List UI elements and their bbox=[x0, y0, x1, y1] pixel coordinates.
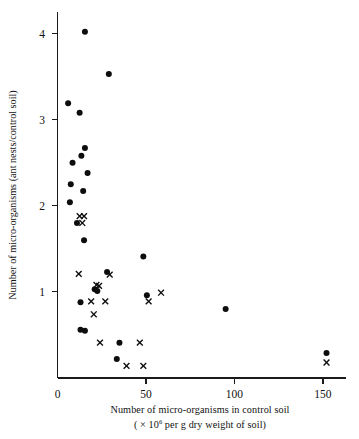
data-point-circle bbox=[67, 199, 73, 205]
x-tick-label: 0 bbox=[55, 388, 61, 400]
chart-figure: 1234 050100150 Number of micro-organisms… bbox=[0, 0, 359, 439]
data-point-circle bbox=[78, 299, 84, 305]
data-point-circle bbox=[82, 29, 88, 35]
y-axis-title: Number of micro-organisms (ant nests/con… bbox=[7, 90, 19, 299]
scatter-plot-svg: 1234 050100150 Number of micro-organisms… bbox=[0, 0, 359, 439]
x-axis-units-prefix: ( × 10 bbox=[134, 419, 159, 431]
x-tick-label: 50 bbox=[140, 388, 152, 400]
data-point-circle bbox=[78, 153, 84, 159]
data-point-circle bbox=[65, 100, 71, 106]
data-point-cross bbox=[137, 340, 143, 346]
x-axis-ticks: 050100150 bbox=[55, 378, 332, 400]
data-point-cross bbox=[124, 363, 130, 369]
data-point-circle bbox=[74, 220, 80, 226]
data-point-circle bbox=[324, 350, 330, 356]
data-point-circle bbox=[116, 340, 122, 346]
data-point-cross bbox=[79, 220, 85, 226]
data-point-circle bbox=[82, 328, 88, 334]
data-point-circle bbox=[77, 110, 83, 116]
x-tick-label: 100 bbox=[226, 388, 244, 400]
data-point-cross bbox=[88, 298, 94, 304]
data-point-cross bbox=[97, 340, 103, 346]
series-cross bbox=[76, 213, 330, 369]
data-point-circle bbox=[82, 145, 88, 151]
data-point-circle bbox=[85, 170, 91, 176]
data-point-cross bbox=[140, 363, 146, 369]
data-point-cross bbox=[146, 298, 152, 304]
data-point-cross bbox=[81, 213, 87, 219]
data-point-circle bbox=[106, 71, 112, 77]
series-filled-circle bbox=[65, 29, 329, 362]
y-tick-label: 3 bbox=[39, 114, 45, 126]
data-point-cross bbox=[102, 298, 108, 304]
data-point-circle bbox=[223, 306, 229, 312]
y-tick-label: 2 bbox=[39, 200, 45, 212]
y-axis-ticks: 1234 bbox=[39, 28, 57, 298]
data-point-circle bbox=[140, 254, 146, 260]
axes-group bbox=[58, 12, 347, 378]
x-axis-title-units: ( × 106 per g dry weight of soil) bbox=[134, 418, 266, 431]
data-point-cross bbox=[158, 290, 164, 296]
data-point-circle bbox=[114, 356, 120, 362]
data-point-cross bbox=[76, 271, 82, 277]
y-tick-label: 4 bbox=[39, 28, 45, 40]
data-point-cross bbox=[91, 311, 97, 317]
x-tick-label: 150 bbox=[314, 388, 332, 400]
data-point-circle bbox=[144, 292, 150, 298]
y-tick-label: 1 bbox=[39, 286, 45, 298]
data-point-circle bbox=[70, 160, 76, 166]
data-point-circle bbox=[68, 181, 74, 187]
x-axis-title: Number of micro-organisms in control soi… bbox=[110, 404, 289, 415]
data-point-circle bbox=[80, 188, 86, 194]
data-point-cross bbox=[324, 360, 330, 366]
data-point-circle bbox=[94, 288, 100, 294]
data-point-circle bbox=[81, 237, 87, 243]
x-axis-units-suffix: per g dry weight of soil) bbox=[162, 419, 266, 431]
